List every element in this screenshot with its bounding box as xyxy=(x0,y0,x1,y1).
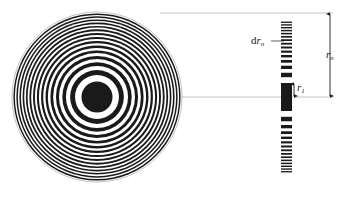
cross-section-bar xyxy=(281,47,292,49)
cross-section-bar xyxy=(281,171,292,172)
label-r-n-subscript: n xyxy=(330,54,333,61)
zone-ring xyxy=(81,81,112,112)
cross-section-bar xyxy=(281,131,292,134)
fresnel-zone-plate xyxy=(12,12,182,182)
cross-section-bar xyxy=(281,43,292,45)
cross-section-bar xyxy=(281,145,292,147)
cross-section-bar xyxy=(281,33,292,35)
cross-section-bar xyxy=(281,156,292,158)
cross-section-bar xyxy=(281,60,292,63)
cross-section-bar xyxy=(281,36,292,38)
cross-section-bar xyxy=(281,125,292,128)
cross-section-bar xyxy=(281,137,292,139)
label-dr-n: drn xyxy=(251,35,264,48)
cross-section-bar xyxy=(281,117,292,121)
cross-section-bar xyxy=(281,24,292,25)
cross-section-bar xyxy=(281,55,292,57)
cross-section-bar xyxy=(281,153,292,155)
cross-section-bar xyxy=(281,83,292,111)
label-r-1: r1 xyxy=(297,82,305,95)
cross-section-bar xyxy=(281,163,292,164)
fresnel-zone-plate-figure: drn r1 rn xyxy=(0,0,343,200)
cross-section-bar xyxy=(281,22,292,23)
label-r-1-subscript: 1 xyxy=(301,87,304,94)
cross-section-bar xyxy=(281,30,292,31)
cross-section-bar xyxy=(281,66,292,69)
label-dr-n-subscript: n xyxy=(261,40,264,47)
cross-section-bar xyxy=(281,73,292,77)
cross-section-bar xyxy=(281,141,292,143)
cross-section-bar xyxy=(281,149,292,151)
cross-section-bar xyxy=(281,166,292,167)
label-r-n: rn xyxy=(326,49,334,62)
diagram-canvas xyxy=(0,0,343,200)
cross-section-bar xyxy=(281,51,292,53)
cross-section-bar xyxy=(281,27,292,28)
cross-section-bar xyxy=(281,168,292,169)
zone-plate-cross-section xyxy=(281,22,292,173)
cross-section-bar xyxy=(281,160,292,162)
